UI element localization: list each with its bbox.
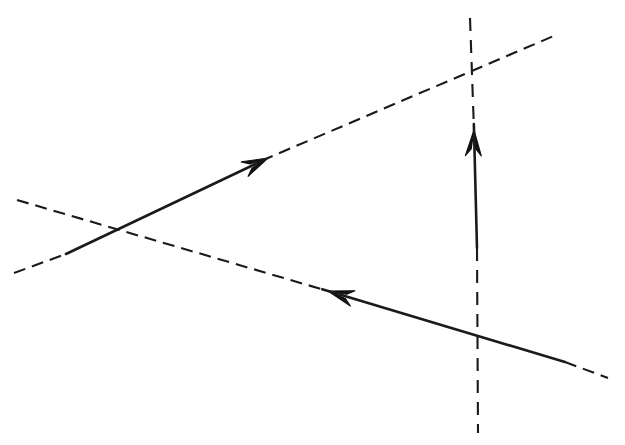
vector-line-diagram xyxy=(0,0,625,445)
diagram-canvas xyxy=(0,0,625,445)
vertical-line-dashed-bottom xyxy=(477,248,478,433)
